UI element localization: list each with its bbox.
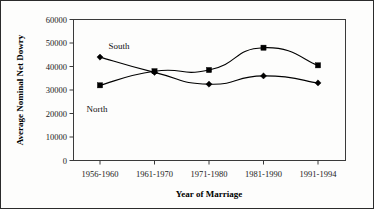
data-point-south-4	[260, 73, 266, 79]
x-tick-label-5: 1991-1994	[300, 169, 338, 179]
y-tick-label-50000: 50000	[46, 38, 67, 48]
y-tick-label-60000: 60000	[46, 15, 67, 25]
data-point-south-1	[97, 54, 103, 60]
y-axis-title: Average Nominal Net Dowry	[15, 34, 25, 145]
y-tick-label-20000: 20000	[46, 109, 67, 119]
x-tick-label-1: 1956-1960	[82, 169, 119, 179]
series-annotation-south: South	[108, 41, 130, 51]
data-point-south-3	[206, 81, 212, 87]
data-point-south-5	[315, 80, 321, 86]
y-tick-label-30000: 30000	[46, 85, 67, 95]
data-point-north-4	[261, 45, 266, 50]
x-axis-tick-labels: 1956-1960 1961-1970 1971-1980 1981-1990 …	[82, 169, 338, 179]
dowry-line-chart: 60000 50000 40000 30000 20000 10000 0 Av…	[1, 1, 374, 209]
y-tick-label-10000: 10000	[46, 132, 67, 142]
series-layer	[97, 45, 321, 88]
data-point-north-5	[315, 63, 320, 68]
data-point-north-2	[152, 69, 157, 74]
data-point-north-3	[206, 67, 211, 72]
x-tick-label-4: 1981-1990	[245, 169, 282, 179]
y-tick-label-0: 0	[63, 156, 67, 166]
x-tick-label-2: 1961-1970	[136, 169, 173, 179]
y-axis-tick-labels: 60000 50000 40000 30000 20000 10000 0	[46, 15, 67, 166]
x-axis-title: Year of Marriage	[176, 189, 242, 199]
x-axis-ticks	[100, 161, 318, 165]
x-tick-label-3: 1971-1980	[191, 169, 228, 179]
y-tick-label-40000: 40000	[46, 62, 67, 72]
series-annotation-north: North	[87, 104, 108, 114]
data-point-north-1	[97, 83, 102, 88]
chart-figure: 60000 50000 40000 30000 20000 10000 0 Av…	[0, 0, 374, 209]
y-axis-ticks	[70, 20, 74, 161]
